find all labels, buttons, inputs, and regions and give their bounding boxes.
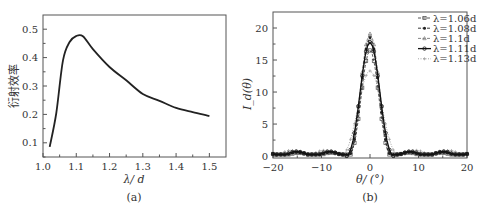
series-0 xyxy=(271,49,468,156)
x-axis-label-a: λ/ d xyxy=(122,173,144,186)
x-tick-label: 1.1 xyxy=(68,161,84,172)
x-tick-label: 1.0 xyxy=(35,161,51,172)
plot-frame-a xyxy=(43,15,226,157)
y-axis-label-a: 衍射效率 xyxy=(7,64,21,108)
x-tick-label: 1.5 xyxy=(201,161,217,172)
y-tick-label: 10 xyxy=(255,87,268,98)
x-tick-label: 1.4 xyxy=(168,161,184,172)
x-axis-label-b: θ/ (°) xyxy=(356,173,384,186)
efficiency-curve xyxy=(50,35,210,147)
x-tick-label: 0 xyxy=(367,162,373,173)
y-tick-label: 0.2 xyxy=(22,109,38,120)
chart-panel-b: −20−1001020 05101520 λ=1.06dλ=1.08dλ=1.1… xyxy=(241,12,477,204)
x-tick-label: 1.2 xyxy=(102,161,118,172)
y-tick-label: 0 xyxy=(262,151,268,162)
legend: λ=1.06dλ=1.08dλ=1.1dλ=1.11dλ=1.13d xyxy=(418,13,477,65)
x-tick-label: 20 xyxy=(461,162,474,173)
series-4 xyxy=(272,69,469,156)
caption-a: (a) xyxy=(126,191,141,204)
y-tick-label: 0.5 xyxy=(22,24,38,35)
x-tick-label: 10 xyxy=(412,162,425,173)
y-tick-label: 0.3 xyxy=(22,81,38,92)
y-tick-label: 5 xyxy=(262,119,268,130)
figure: 1.01.11.21.31.41.5 0.10.20.30.40.5 λ/ d … xyxy=(0,0,481,211)
legend-label: λ=1.13d xyxy=(433,53,477,64)
x-axis-b: −20−1001020 xyxy=(262,154,473,173)
x-tick-label: −10 xyxy=(311,162,332,173)
y-axis-b: 05101520 xyxy=(255,23,277,162)
x-tick-label: −20 xyxy=(262,162,283,173)
y-tick-label: 20 xyxy=(255,23,268,34)
x-tick-label: 1.3 xyxy=(135,161,151,172)
y-tick-label: 0.4 xyxy=(22,52,38,63)
y-tick-label: 15 xyxy=(255,55,268,66)
y-axis-label-b: I_d(θ) xyxy=(241,78,254,111)
legend-item: λ=1.13d xyxy=(418,53,477,64)
caption-b: (b) xyxy=(362,191,378,204)
chart-panel-a: 1.01.11.21.31.41.5 0.10.20.30.40.5 λ/ d … xyxy=(7,15,226,204)
x-axis-a: 1.01.11.21.31.41.5 xyxy=(35,153,217,172)
y-tick-label: 0.1 xyxy=(22,137,38,148)
